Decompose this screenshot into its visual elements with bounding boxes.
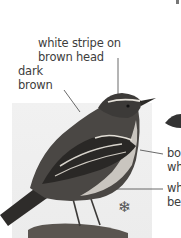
winter-snowflake-icon: ❄ — [118, 198, 131, 216]
label-belly-line1: wh — [167, 181, 181, 195]
wagtail-illustration — [0, 0, 181, 238]
label-belly-line2: be — [167, 195, 181, 209]
label-wing-line2: wh — [167, 160, 181, 174]
label-wing-line1: bo — [167, 146, 181, 160]
